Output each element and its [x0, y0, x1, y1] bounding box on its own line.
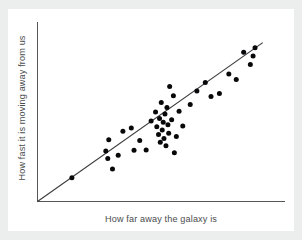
data-point: [164, 105, 169, 110]
data-point: [194, 89, 199, 94]
data-point: [161, 120, 166, 125]
data-point: [203, 80, 208, 85]
data-point: [172, 150, 177, 155]
data-point: [169, 117, 174, 122]
data-point: [156, 132, 161, 137]
data-point: [161, 136, 166, 141]
data-point: [165, 122, 170, 127]
x-axis-label: How far away the galaxy is: [37, 214, 285, 224]
data-point: [209, 94, 214, 99]
data-point: [110, 167, 115, 172]
data-point: [217, 91, 222, 96]
data-point: [174, 134, 179, 139]
scatter-plot-canvas: [0, 0, 302, 240]
data-point: [144, 147, 149, 152]
data-point: [103, 148, 108, 153]
data-point: [137, 138, 142, 143]
data-point: [162, 112, 167, 117]
data-point: [120, 129, 125, 134]
data-point: [234, 77, 239, 82]
figure-frame: How far away the galaxy is How fast it i…: [0, 0, 302, 240]
data-point: [188, 102, 193, 107]
data-point: [226, 72, 231, 77]
data-point: [180, 123, 185, 128]
data-point: [171, 93, 176, 98]
data-point: [241, 50, 246, 55]
data-point: [158, 140, 163, 145]
data-point: [251, 54, 256, 59]
data-point: [106, 137, 111, 142]
data-point: [177, 109, 182, 114]
data-point: [163, 143, 168, 148]
data-point: [153, 110, 158, 115]
data-point: [166, 131, 171, 136]
data-point: [160, 127, 165, 132]
data-point: [253, 45, 258, 50]
data-point: [167, 84, 172, 89]
data-point: [154, 124, 159, 129]
data-point: [157, 116, 162, 121]
data-point: [116, 153, 121, 158]
data-point: [69, 175, 74, 180]
y-axis-label: How fast it is moving away from us: [17, 23, 27, 193]
data-point: [149, 118, 154, 123]
data-point: [159, 100, 164, 105]
data-point: [129, 125, 134, 130]
data-point: [132, 148, 137, 153]
data-point: [248, 62, 253, 67]
data-point: [105, 156, 110, 161]
